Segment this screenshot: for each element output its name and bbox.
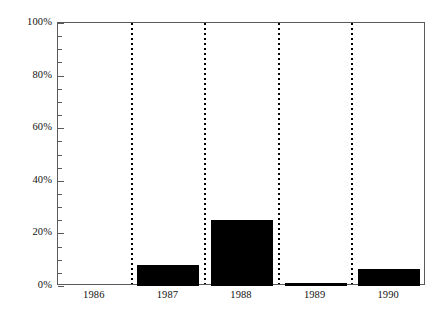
bar [285, 283, 347, 286]
y-axis-tick-label: 80% [0, 69, 52, 80]
x-axis-label-group: 1986 1987 1988 1989 1990 [57, 289, 425, 311]
bar-chart: 100% 80% 60% 40% 20% 0% 1986 1987 1988 1… [0, 0, 445, 315]
y-axis-tick-label: 0% [0, 280, 52, 291]
y-axis-label-group: 100% 80% 60% 40% 20% 0% [0, 0, 52, 315]
x-axis-tick-label: 1987 [157, 289, 178, 302]
bar-series [58, 23, 426, 286]
x-axis-tick-label: 1988 [230, 289, 251, 302]
y-axis-tick-label: 100% [0, 17, 52, 28]
x-axis-tick-label: 1989 [304, 289, 325, 302]
bar [358, 269, 420, 286]
plot-area [57, 22, 425, 285]
x-axis-tick-label: 1986 [83, 289, 104, 302]
y-axis-tick-label: 60% [0, 122, 52, 133]
bar [137, 265, 199, 286]
bar [211, 220, 273, 286]
y-axis-tick-label: 40% [0, 175, 52, 186]
y-axis-tick-label: 20% [0, 227, 52, 238]
y-axis-major-tick [58, 286, 64, 287]
x-axis-tick-label: 1990 [377, 289, 398, 302]
